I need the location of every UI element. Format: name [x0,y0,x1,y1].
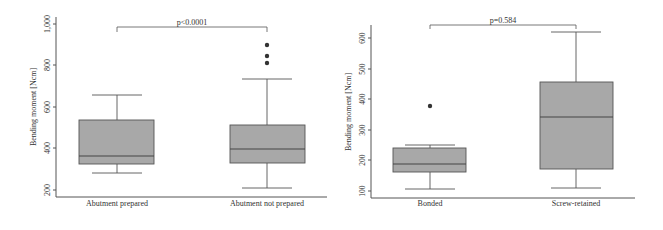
box-screw-retained [540,32,613,188]
outlier [428,104,432,108]
right-chart: 100 200 300 400 500 600 Bending moment [… [330,0,663,230]
tick-label: 600 [358,32,367,44]
y-axis-label: Bending moment [Ncm] [344,73,353,152]
tick-label: 200 [43,184,52,196]
category-label: Abutment not prepared [230,199,304,208]
tick-label: 500 [358,63,367,75]
left-chart-svg: 200 400 600 800 1,000 Bending moment [Nc… [0,0,330,230]
box-abutment-prepared [79,95,154,173]
right-chart-svg: 100 200 300 400 500 600 Bending moment [… [330,0,663,230]
tick-label: 200 [358,154,367,166]
tick-label: 1,000 [43,15,52,33]
tick-label: 400 [43,142,52,154]
y-axis-label: Bending moment [Ncm] [29,68,38,147]
significance-bracket [430,25,576,29]
category-label: Abutment prepared [86,199,148,208]
significance-bracket [117,27,267,32]
p-value-label: p<0.0001 [177,18,208,27]
tick-label: 300 [358,124,367,136]
p-value-label: p=0.584 [490,16,517,25]
tick-label: 100 [358,185,367,197]
outliers [265,43,269,65]
y-tick-labels: 200 400 600 800 1,000 [43,15,52,196]
category-label: Screw-retained [552,199,600,208]
box-abutment-not-prepared [230,79,305,188]
box-bonded [393,145,466,189]
y-tick-labels: 100 200 300 400 500 600 [358,32,367,197]
tick-label: 600 [43,101,52,113]
tick-label: 400 [358,93,367,105]
left-chart: 200 400 600 800 1,000 Bending moment [Nc… [0,0,330,230]
tick-label: 800 [43,59,52,71]
category-label: Bonded [418,199,443,208]
